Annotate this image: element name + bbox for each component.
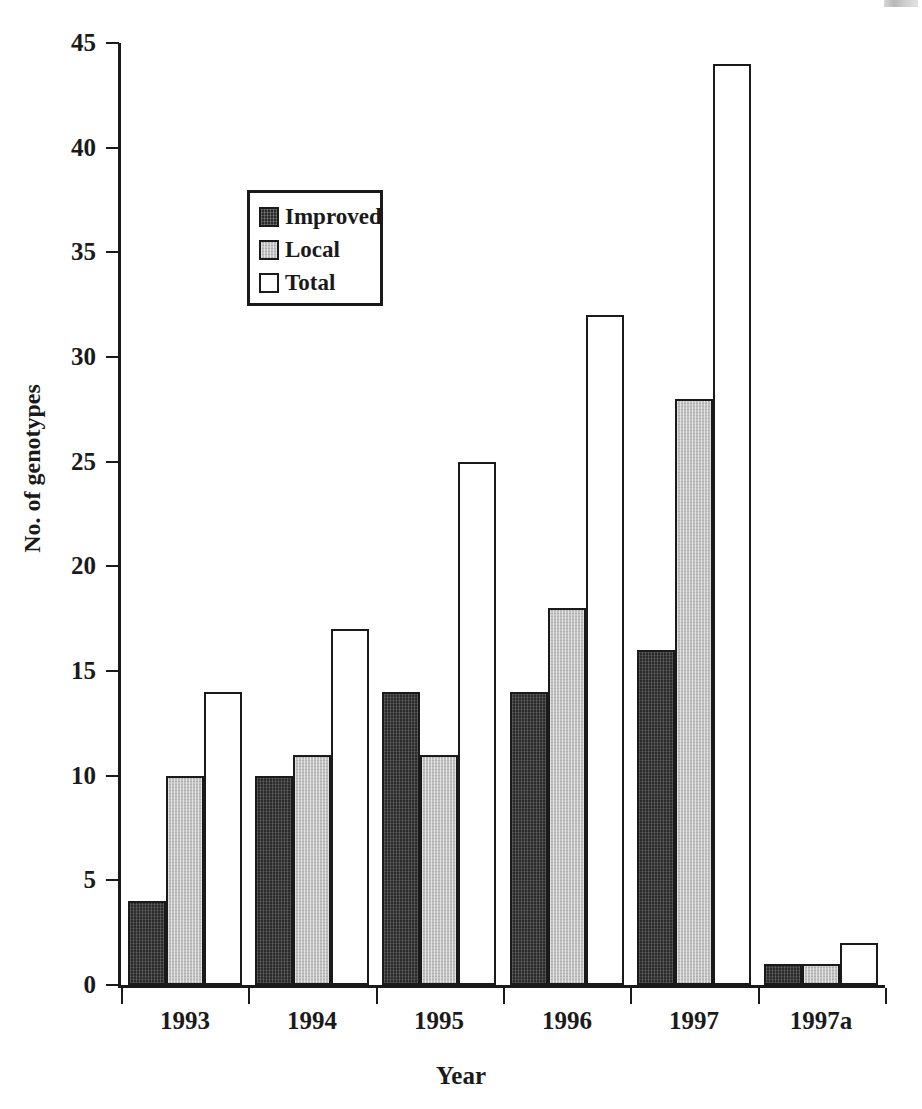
x-axis-tick-label: 1997 <box>624 1008 764 1033</box>
y-axis-title: No. of genotypes <box>19 339 46 599</box>
legend-item-label: Total <box>285 271 335 294</box>
x-axis-tick-label: 1995 <box>369 1008 509 1033</box>
bar-local-1993 <box>166 776 204 985</box>
y-axis-tick-label: 40 <box>38 135 96 160</box>
bar-total-1997 <box>713 64 751 985</box>
y-axis-tick <box>106 147 119 149</box>
chart-page: 051015202530354045 199319941995199619971… <box>0 0 922 1109</box>
x-axis-tick-label: 1997a <box>751 1008 891 1033</box>
y-axis-tick-label: 0 <box>38 972 96 997</box>
x-axis-tick-label: 1993 <box>115 1008 255 1033</box>
bar-improved-1996 <box>510 692 548 985</box>
plot-area: 051015202530354045 199319941995199619971… <box>0 0 922 1109</box>
bar-total-1997a <box>840 943 878 985</box>
y-axis-tick-label: 15 <box>38 658 96 683</box>
y-axis-tick <box>106 879 119 881</box>
x-axis-tick-label: 1996 <box>497 1008 637 1033</box>
y-axis-tick-label: 35 <box>38 239 96 264</box>
x-axis-tick <box>758 988 760 1004</box>
y-axis-tick <box>106 775 119 777</box>
x-axis-tick <box>503 988 505 1004</box>
bar-local-1994 <box>293 755 331 985</box>
x-axis-tick <box>885 988 887 1004</box>
chart-legend: Improved Local Total <box>247 190 383 306</box>
y-axis-tick <box>106 356 119 358</box>
y-axis-tick <box>106 984 119 986</box>
x-axis-tick <box>121 988 123 1004</box>
bar-improved-1995 <box>382 692 420 985</box>
bar-local-1997 <box>675 399 713 985</box>
y-axis-tick-label: 25 <box>38 449 96 474</box>
bar-improved-1997a <box>764 964 802 985</box>
y-axis-tick <box>106 670 119 672</box>
legend-item-label: Local <box>285 238 340 261</box>
bar-local-1996 <box>548 608 586 985</box>
legend-item-total: Total <box>259 266 380 299</box>
y-axis-tick <box>106 461 119 463</box>
y-axis-tick-label: 30 <box>38 344 96 369</box>
legend-item-label: Improved <box>285 205 382 228</box>
bar-total-1994 <box>331 629 369 985</box>
legend-item-local: Local <box>259 233 380 266</box>
dark-hatched-swatch <box>259 207 279 227</box>
bar-local-1995 <box>420 755 458 985</box>
x-axis-tick-label: 1994 <box>242 1008 382 1033</box>
y-axis-line <box>118 43 121 987</box>
y-axis-tick <box>106 565 119 567</box>
bar-total-1996 <box>586 315 624 985</box>
bar-improved-1994 <box>255 776 293 985</box>
bar-local-1997a <box>802 964 840 985</box>
y-axis-tick-label: 45 <box>38 30 96 55</box>
x-axis-tick <box>630 988 632 1004</box>
legend-item-improved: Improved <box>259 200 380 233</box>
bar-improved-1997 <box>637 650 675 985</box>
gray-hatched-swatch <box>259 240 279 260</box>
y-axis-tick <box>106 42 119 44</box>
bar-total-1995 <box>458 462 496 985</box>
y-axis-tick-label: 5 <box>38 867 96 892</box>
bar-total-1993 <box>204 692 242 985</box>
y-axis-tick-label: 10 <box>38 763 96 788</box>
y-axis-tick <box>106 251 119 253</box>
x-axis-line <box>118 985 885 988</box>
x-axis-tick <box>248 988 250 1004</box>
white-outline-swatch <box>259 273 279 293</box>
bar-improved-1993 <box>128 901 166 985</box>
x-axis-title: Year <box>0 1062 922 1090</box>
x-axis-tick <box>376 988 378 1004</box>
y-axis-tick-label: 20 <box>38 553 96 578</box>
